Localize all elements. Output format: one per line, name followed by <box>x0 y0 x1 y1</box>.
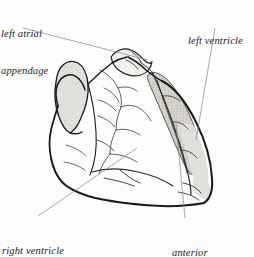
rv-surface-line-2 <box>64 162 85 170</box>
marginal-artery-branch-2 <box>104 178 134 186</box>
label-line: left ventricle <box>188 35 243 47</box>
rv-surface-line-1 <box>66 145 86 156</box>
vessel-branch-5 <box>116 129 140 135</box>
lv-apex-fold-2 <box>178 192 199 200</box>
left-auricle-lobe <box>111 49 152 76</box>
vessel-branch-7 <box>110 154 137 162</box>
left-atrial-appendage-shape <box>55 62 88 133</box>
label-line: appendage <box>1 65 48 77</box>
label-right-ventricle-overlying-left-ventricle: right ventricle overlying left ventricle <box>2 220 64 257</box>
label-anterior-interventricular-groove: anterior interventricular groove <box>172 222 241 257</box>
vessel-arc-b <box>99 100 116 111</box>
shaded-regions <box>55 49 210 200</box>
vessel-arc-c <box>98 116 115 127</box>
vessel-branch-8 <box>99 154 110 174</box>
vessel-arc-a <box>104 88 119 102</box>
apex-curve <box>51 158 63 183</box>
vessel-branch-2 <box>118 87 137 91</box>
vessel-branch-4 <box>116 107 121 130</box>
label-line: right ventricle <box>2 245 64 257</box>
vessel-branch-6 <box>110 130 116 154</box>
vessel-branch-3 <box>121 105 151 121</box>
marginal-artery-main <box>92 169 173 186</box>
figure-root: left atrial appendage left ventricle rig… <box>0 0 254 257</box>
label-left-ventricle: left ventricle <box>188 10 243 72</box>
label-line: left atrial <box>1 28 48 40</box>
right-ventricle-left-contour <box>50 106 59 158</box>
rv-anterior-fold <box>88 84 96 175</box>
label-line: anterior <box>172 247 241 257</box>
label-left-atrial-appendage: left atrial appendage <box>1 3 48 102</box>
